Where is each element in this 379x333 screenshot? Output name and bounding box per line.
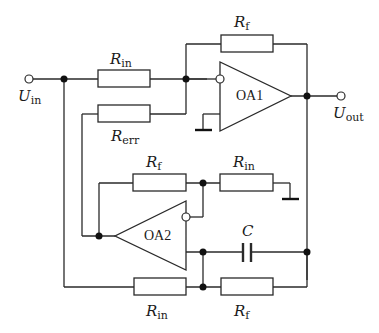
label-capacitor: C (242, 224, 253, 239)
resistor-r-f-mid (133, 174, 186, 191)
resistor-r-in-mid (220, 174, 273, 191)
junction-dot (61, 76, 68, 83)
subscript: f (245, 309, 249, 322)
subscript: f (245, 20, 249, 33)
symbol: C (242, 222, 253, 240)
symbol: U (333, 104, 346, 122)
resistor-r-in-top (98, 70, 150, 87)
junction-dot (200, 249, 207, 256)
oa1-inverting-marker-icon (216, 75, 224, 83)
subscript: in (244, 160, 255, 173)
symbol: R (110, 50, 121, 68)
subscript: err (122, 134, 139, 147)
subscript: in (31, 94, 42, 107)
junction-dot (304, 249, 311, 256)
input-terminal-icon (25, 75, 33, 83)
label-u-out: Uout (333, 106, 364, 123)
symbol: R (234, 13, 245, 31)
symbol: U (18, 87, 31, 105)
label-r-f-bot: Rf (234, 304, 249, 321)
oa2-inverting-marker-icon (182, 213, 190, 221)
circuit-schematic (0, 0, 379, 333)
label-r-in-bot: Rin (146, 304, 168, 321)
symbol: R (111, 127, 122, 145)
label-r-in-top: Rin (110, 52, 132, 69)
resistor-r-f-top (221, 35, 273, 52)
label-r-f-top: Rf (234, 15, 249, 32)
symbol: R (146, 153, 157, 171)
label-r-in-mid: Rin (233, 155, 255, 172)
subscript: f (157, 160, 161, 173)
subscript: in (157, 309, 168, 322)
junction-dot (304, 93, 311, 100)
junction-dot (200, 180, 207, 187)
symbol: R (146, 302, 157, 320)
label-r-err: Rerr (111, 129, 139, 146)
junction-dot (96, 233, 103, 240)
label-u-in: Uin (18, 89, 41, 106)
output-terminal-icon (337, 92, 345, 100)
subscript: in (121, 57, 132, 70)
label-r-f-mid: Rf (146, 155, 161, 172)
resistor-r-f-bot (221, 278, 273, 295)
symbol: R (234, 302, 245, 320)
resistor-r-err (98, 105, 150, 122)
label-oa1: OA1 (236, 88, 263, 104)
symbol: R (233, 153, 244, 171)
subscript: out (346, 111, 364, 124)
resistor-r-in-bot (134, 278, 186, 295)
junction-dot (200, 284, 207, 291)
label-oa2: OA2 (144, 228, 171, 244)
junction-dot (183, 76, 190, 83)
